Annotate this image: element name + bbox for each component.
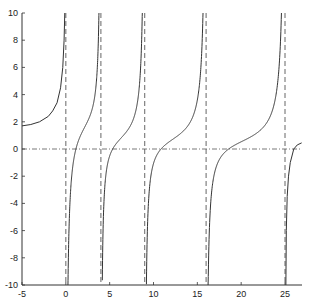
x-tick-label: -5 (18, 289, 26, 299)
y-tick-label: 10 (8, 8, 18, 18)
reference-lines (22, 13, 302, 285)
y-tick-label: -4 (10, 198, 18, 208)
y-tick-label: 6 (13, 62, 18, 72)
x-tick-label: 0 (63, 289, 68, 299)
x-tick-label: 5 (107, 289, 112, 299)
y-tick-label: 0 (13, 144, 18, 154)
y-tick-label: -6 (10, 226, 18, 236)
y-tick-label: 2 (13, 117, 18, 127)
curve-branch (102, 13, 142, 280)
x-tick-label: 25 (280, 289, 290, 299)
plot-area: -50510152025 -10-8-6-4-20246810 (0, 0, 314, 305)
curve-branch (22, 13, 65, 126)
y-tick-label: -2 (10, 171, 18, 181)
y-tick-label: -10 (5, 280, 18, 290)
y-tick-label: 4 (13, 90, 18, 100)
x-tick-label: 20 (236, 289, 246, 299)
curve-branch (286, 143, 302, 285)
y-tick-label: 8 (13, 35, 18, 45)
x-tick-label: 15 (192, 289, 202, 299)
x-tick-label: 10 (148, 289, 158, 299)
y-tick-label: -8 (10, 253, 18, 263)
